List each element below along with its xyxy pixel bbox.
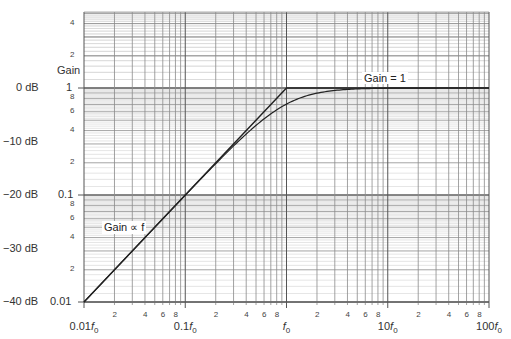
- x-minor-tick-label: 6: [262, 310, 266, 319]
- y-gain-tick-label: 1: [66, 81, 72, 93]
- y-minor-tick-label: 6: [70, 106, 74, 115]
- x-minor-tick-label: 4: [143, 310, 147, 319]
- y-minor-tick-label: 6: [70, 213, 74, 222]
- x-minor-tick-label: 6: [363, 310, 367, 319]
- y-gain-tick-label: 0.1: [58, 188, 73, 200]
- x-major-tick-label: 10f0: [378, 320, 398, 335]
- y-db-tick-label: −30 dB: [3, 242, 38, 254]
- x-minor-tick-label: 8: [477, 310, 481, 319]
- y-minor-tick-label: 2: [70, 264, 74, 273]
- y-db-tick-label: −40 dB: [3, 295, 38, 307]
- x-minor-tick-label: 2: [416, 310, 420, 319]
- y-minor-tick-label: 2: [70, 157, 74, 166]
- x-minor-tick-label: 4: [345, 310, 349, 319]
- x-minor-tick-label: 4: [244, 310, 248, 319]
- y-db-tick-label: −20 dB: [3, 188, 38, 200]
- y-minor-tick-label: 8: [70, 199, 74, 208]
- y-axis-title: Gain: [57, 64, 80, 76]
- x-minor-tick-label: 8: [173, 310, 177, 319]
- annotation-gain-equals-1: Gain = 1: [362, 72, 408, 84]
- x-minor-tick-label: 8: [275, 310, 279, 319]
- x-major-tick-label: f0: [283, 320, 291, 335]
- x-minor-tick-label: 2: [315, 310, 319, 319]
- x-minor-tick-label: 8: [376, 310, 380, 319]
- y-db-tick-label: −10 dB: [3, 135, 38, 147]
- y-minor-tick-label: 8: [70, 92, 74, 101]
- x-major-tick-label: 100f0: [476, 320, 502, 335]
- x-minor-tick-label: 2: [112, 310, 116, 319]
- y-minor-tick-label: 4: [70, 232, 74, 241]
- y-gain-tick-label: 0.01: [50, 295, 71, 307]
- annotation-gain-proportional-f: Gain ∝ f: [102, 221, 146, 234]
- x-major-tick-label: 0.1f0: [174, 320, 197, 335]
- x-minor-tick-label: 4: [447, 310, 451, 319]
- y-minor-tick-label: 4: [70, 18, 74, 27]
- y-minor-tick-label: 2: [70, 50, 74, 59]
- y-minor-tick-label: 4: [70, 125, 74, 134]
- x-minor-tick-label: 2: [214, 310, 218, 319]
- x-minor-tick-label: 6: [465, 310, 469, 319]
- y-db-tick-label: 0 dB: [16, 81, 39, 93]
- bode-plot: [0, 0, 511, 339]
- x-minor-tick-label: 6: [161, 310, 165, 319]
- x-major-tick-label: 0.01f0: [70, 320, 99, 335]
